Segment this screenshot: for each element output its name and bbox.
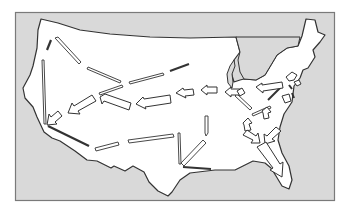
us-migration-map (0, 0, 348, 222)
